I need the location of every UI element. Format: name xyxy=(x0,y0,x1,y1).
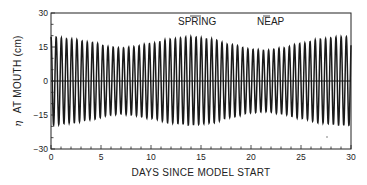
y-tick-label: −15 xyxy=(34,110,49,120)
x-axis-ticks: 051015202530 xyxy=(49,145,356,162)
x-tick-label: 10 xyxy=(146,152,156,162)
x-tick-label: 0 xyxy=(49,152,54,162)
plot-area: 051015202530 −30−1501530 xyxy=(34,8,356,162)
x-tick-label: 15 xyxy=(196,152,206,162)
y-axis-ticks: −30−1501530 xyxy=(34,8,55,154)
x-axis-title: DAYS SINCE MODEL START xyxy=(131,167,270,178)
x-tick-label: 30 xyxy=(346,152,356,162)
y-tick-label: −30 xyxy=(34,144,49,154)
y-axis-label-text: AT MOUTH (cm) xyxy=(12,35,23,113)
x-tick-label: 20 xyxy=(246,152,256,162)
x-tick-label: 25 xyxy=(296,152,306,162)
y-tick-label: 0 xyxy=(43,76,48,86)
y-axis-title: η AT MOUTH (cm) xyxy=(12,35,23,126)
scan-artifact-dot xyxy=(326,136,327,137)
annotations: SPRING NEAP xyxy=(178,16,285,27)
svg-text:η AT MOUTH (cm): η AT MOUTH (cm) xyxy=(12,35,23,126)
tidal-elevation-chart: 051015202530 −30−1501530 SPRING NEAP DAY… xyxy=(0,0,367,185)
neap-label: NEAP xyxy=(257,16,285,27)
x-tick-label: 5 xyxy=(99,152,104,162)
eta-symbol: η xyxy=(12,120,23,126)
spring-label: SPRING xyxy=(178,16,217,27)
y-tick-label: 30 xyxy=(39,8,49,18)
y-tick-label: 15 xyxy=(39,42,49,52)
